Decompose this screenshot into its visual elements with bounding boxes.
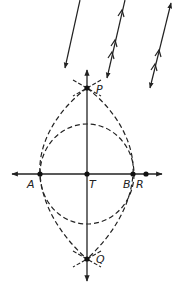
point-b <box>130 171 135 176</box>
point-p <box>84 85 89 90</box>
point-q <box>84 256 89 261</box>
label-t: T <box>89 178 97 191</box>
label-r: R <box>136 178 144 191</box>
point-t <box>84 171 89 176</box>
label-q: Q <box>96 253 105 266</box>
point-r <box>143 171 148 176</box>
diagram-canvas: P Q A T B R <box>0 0 180 282</box>
label-b: B <box>123 178 131 191</box>
field-line-3 <box>150 3 171 88</box>
point-a <box>37 171 42 176</box>
field-lines <box>65 0 171 88</box>
label-p: P <box>96 83 103 96</box>
label-a: A <box>26 178 35 191</box>
field-line-1 <box>65 0 80 68</box>
